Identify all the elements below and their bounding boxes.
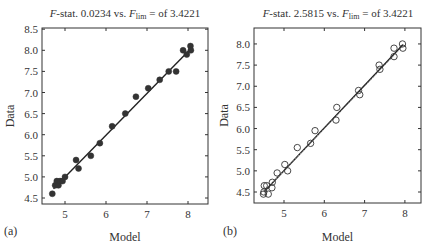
panel-a: F-stat. 0.0234 vs. Flim = of 3.422156784… [3, 7, 208, 244]
x-tick-label: 7 [362, 207, 368, 219]
panel-label: (b) [223, 224, 237, 238]
x-tick-label: 7 [144, 208, 150, 220]
y-tick-label: 5.5 [236, 144, 250, 156]
y-tick-label: 8.0 [236, 38, 250, 50]
y-axis-label: Data [217, 104, 231, 127]
data-point [62, 174, 68, 180]
panel-b: F-stat. 2.5815 vs. Flim = of 3.422156784… [217, 7, 421, 244]
data-point [333, 117, 339, 123]
x-tick-label: 5 [62, 208, 68, 220]
y-tick-label: 6.0 [236, 123, 250, 135]
data-point [145, 85, 151, 91]
y-axis-label: Data [3, 104, 17, 127]
y-tick-label: 7.5 [24, 65, 38, 77]
data-point [88, 153, 94, 159]
data-point [49, 191, 55, 197]
y-tick-label: 7.0 [24, 87, 38, 99]
data-point [334, 104, 340, 110]
data-point [284, 168, 290, 174]
data-point [166, 68, 172, 74]
y-tick-label: 6.5 [24, 108, 38, 120]
data-point [122, 111, 128, 117]
y-tick-label: 7.5 [236, 59, 250, 71]
y-tick-label: 7.0 [236, 80, 250, 92]
data-point [97, 140, 103, 146]
x-tick-label: 8 [185, 208, 191, 220]
x-tick-label: 8 [402, 207, 408, 219]
data-point [133, 94, 139, 100]
data-point [173, 68, 179, 74]
data-point [76, 165, 82, 171]
figure: F-stat. 0.0234 vs. Flim = of 3.422156784… [0, 0, 434, 248]
y-tick-label: 4.5 [236, 186, 250, 198]
y-tick-label: 6.0 [24, 129, 38, 141]
data-point [274, 170, 280, 176]
y-tick-label: 5.5 [24, 150, 38, 162]
data-point [73, 157, 79, 163]
data-point [282, 161, 288, 167]
x-tick-label: 5 [281, 207, 287, 219]
y-tick-label: 8.0 [24, 44, 38, 56]
x-axis-label: Model [109, 230, 141, 244]
chart-title: F-stat. 0.0234 vs. Flim = of 3.4221 [49, 7, 201, 21]
x-tick-label: 6 [103, 208, 109, 220]
y-tick-label: 5.0 [236, 165, 250, 177]
x-tick-label: 6 [322, 207, 328, 219]
data-point [357, 92, 363, 98]
chart-canvas: F-stat. 0.0234 vs. Flim = of 3.422156784… [0, 0, 434, 248]
data-point [157, 77, 163, 83]
panel-label: (a) [4, 224, 17, 238]
chart-title: F-stat. 2.5815 vs. Flim = of 3.4221 [262, 7, 414, 21]
data-point [188, 47, 194, 53]
data-point [109, 123, 115, 129]
x-axis-label: Model [322, 230, 354, 244]
y-tick-label: 8.5 [24, 23, 38, 35]
data-point [312, 127, 318, 133]
data-point [391, 45, 397, 51]
y-tick-label: 4.5 [24, 192, 38, 204]
y-tick-label: 6.5 [236, 101, 250, 113]
data-point [294, 144, 300, 150]
y-tick-label: 5.0 [24, 171, 38, 183]
